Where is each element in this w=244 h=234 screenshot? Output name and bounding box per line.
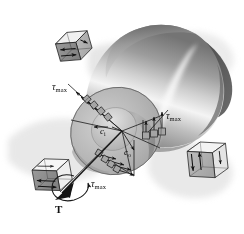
tau-max-label-lower: τmax	[91, 174, 106, 190]
outer-radius-label: co	[124, 142, 131, 158]
figure-canvas	[0, 0, 244, 234]
inner-radius-label: ci	[100, 121, 106, 137]
radius-subscript: o	[128, 152, 131, 158]
tau-max-label-upper-left: τmax	[52, 77, 67, 93]
radius-subscript: i	[104, 131, 106, 137]
tau-max-label-right: τmax	[166, 106, 181, 122]
tau-subscript: max	[170, 115, 182, 122]
tau-subscript: max	[56, 86, 68, 93]
tau-subscript: max	[95, 183, 107, 190]
torque-label: T	[55, 204, 62, 215]
torsion-shaft-figure: τmax τmax τmax ci co T	[0, 0, 244, 234]
